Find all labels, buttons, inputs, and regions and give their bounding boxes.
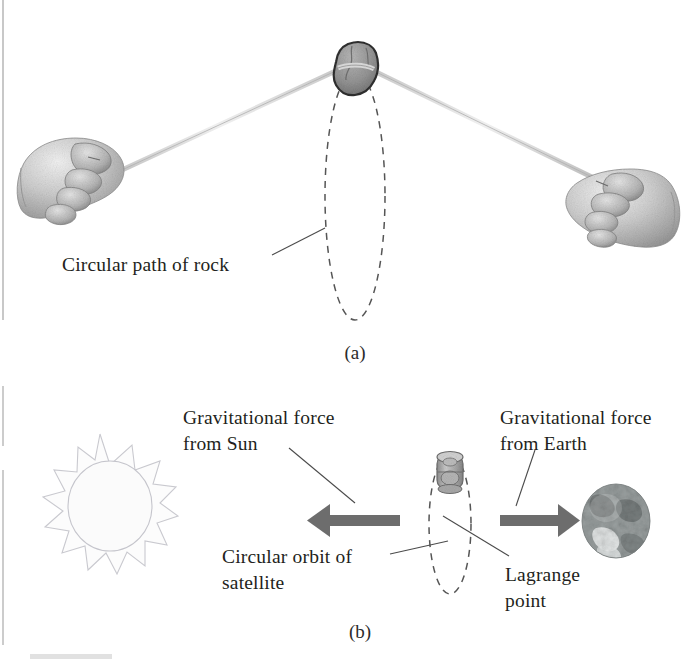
label-circular-orbit-of-satellite-line2: satellite	[222, 572, 284, 593]
label-gravitational-force-from-earth-line1: Gravitational force	[500, 407, 652, 428]
panel-label-a: (a)	[344, 342, 365, 364]
label-gravitational-force-from-sun-line2: from Sun	[183, 433, 258, 454]
label-lagrange-point-line1: Lagrange	[505, 564, 580, 585]
label-gravitational-force-from-earth-line2: from Earth	[500, 433, 587, 454]
scan-smudge	[30, 654, 112, 659]
label-lagrange-point-line2: point	[505, 590, 546, 611]
physics-figure: Circular path of rock (a)	[0, 0, 696, 664]
left-edge-rule-top	[2, 0, 4, 320]
satellite-icon	[437, 452, 463, 494]
left-edge-rule-bottom	[2, 470, 4, 645]
label-circular-orbit-of-satellite-line1: Circular orbit of	[222, 546, 352, 567]
panel-label-b: (b)	[349, 621, 371, 643]
label-circular-path-of-rock: Circular path of rock	[62, 254, 229, 275]
left-edge-rule-mid	[2, 386, 4, 446]
label-gravitational-force-from-sun-line1: Gravitational force	[183, 407, 335, 428]
figure-canvas: Circular path of rock (a)	[0, 0, 696, 664]
